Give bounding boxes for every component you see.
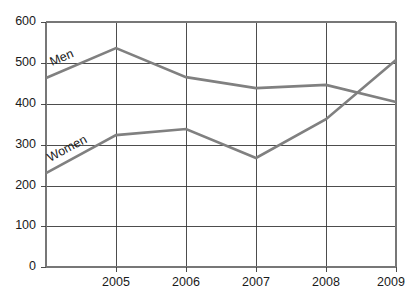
ytick-label-300: 300 [15,137,36,151]
xtick-label-2007: 2007 [242,275,270,289]
ytick-label-500: 500 [15,55,36,69]
xtick-label-2005: 2005 [102,275,130,289]
ytick-label-100: 100 [15,218,36,232]
ytick-label-600: 600 [15,14,36,28]
xtick-label-2009: 2009 [377,275,405,289]
ytick-label-400: 400 [15,96,36,110]
ytick-label-200: 200 [15,178,36,192]
chart-canvas: 600 500 400 300 200 100 0 2005 2006 2007… [0,0,416,300]
xtick-label-2008: 2008 [312,275,340,289]
ytick-label-0: 0 [29,259,36,273]
line-chart: 600 500 400 300 200 100 0 2005 2006 2007… [0,0,416,300]
xtick-label-2006: 2006 [172,275,200,289]
